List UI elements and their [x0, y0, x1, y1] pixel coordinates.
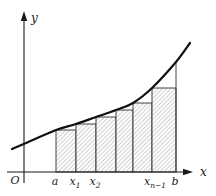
tick-label-x1: x1 [70, 175, 81, 190]
y-axis-arrowhead-icon [21, 11, 27, 21]
tick-label-a: a [52, 175, 59, 188]
x-axis-arrowhead-icon [183, 169, 193, 175]
tick-label-b: b [171, 175, 178, 188]
riemann-rectangle-4 [116, 110, 133, 172]
tick-label-x2: x2 [90, 175, 101, 190]
riemann-rectangle-2 [76, 124, 96, 172]
riemann-rectangle-6 [152, 88, 176, 172]
riemann-sum-figure: Oyxax1x2xn−1b [0, 0, 216, 196]
tick-label-xn−1: xn−1 [144, 175, 166, 190]
riemann-rectangle-5 [133, 103, 152, 172]
origin-label: O [10, 174, 19, 187]
riemann-rectangle-1 [56, 130, 76, 172]
y-axis-label: y [30, 11, 38, 25]
x-axis-label: x [200, 165, 207, 179]
riemann-rectangle-3 [96, 117, 116, 172]
figure-canvas: Oyxax1x2xn−1b [0, 0, 216, 196]
